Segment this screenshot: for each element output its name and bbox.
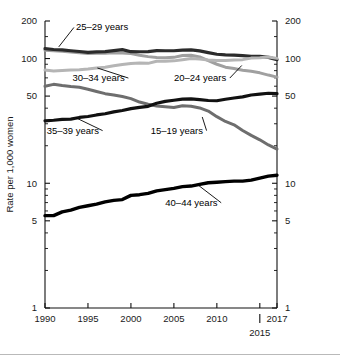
x-tick-label: 1990 <box>34 313 55 324</box>
y-tick-label-right: 100 <box>285 53 301 64</box>
footer-divider <box>0 354 340 355</box>
series-annotation-label: 35–39 years <box>47 125 100 136</box>
y-tick-label-left: 1 <box>32 302 37 313</box>
x-tick-label: 2017 <box>266 313 287 324</box>
series-annotation-label: 40–44 years <box>165 197 218 208</box>
x-tick-label-2015: 2015 <box>249 327 270 338</box>
y-tick-label-right: 200 <box>285 15 301 26</box>
y-tick-label-left: 10 <box>26 178 37 189</box>
y-tick-label-left: 200 <box>21 15 37 26</box>
y-axis-tick-labels-left: 200100501051 <box>21 15 37 313</box>
y-tick-label-right: 10 <box>285 178 296 189</box>
series-annotation-label: 20–24 years <box>174 72 227 83</box>
x-axis-tick-labels: 1990199520002005201020172015 <box>34 313 287 338</box>
y-axis-title: Rate per 1,000 women <box>4 116 15 212</box>
y-axis-tick-labels-right: 200100501051 <box>285 15 301 313</box>
chart-figure: 200100501051 200100501051 19901995200020… <box>0 0 340 360</box>
y-tick-label-left: 5 <box>32 215 37 226</box>
y-tick-label-left: 50 <box>26 90 37 101</box>
series-line-40-44-years <box>45 175 277 215</box>
series-annotation-label: 30–34 years <box>72 72 125 83</box>
series-annotation-label: 15–19 years <box>151 125 204 136</box>
y-tick-label-right: 1 <box>285 302 290 313</box>
birth-rate-line-chart: 200100501051 200100501051 19901995200020… <box>0 0 340 360</box>
y-tick-label-right: 5 <box>285 215 290 226</box>
x-tick-label: 1995 <box>77 313 98 324</box>
y-tick-label-right: 50 <box>285 90 296 101</box>
y-tick-label-left: 100 <box>21 53 37 64</box>
x-tick-label: 2010 <box>206 313 227 324</box>
x-tick-label: 2000 <box>120 313 141 324</box>
series-annotation-label: 25–29 years <box>76 21 129 32</box>
x-tick-label: 2005 <box>163 313 184 324</box>
annotation-leader-line <box>59 27 74 46</box>
